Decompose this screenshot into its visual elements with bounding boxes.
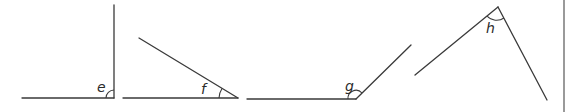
angles-diagram: e f g h — [0, 0, 566, 112]
angle-f: f — [123, 38, 238, 98]
angle-h-left-arm — [415, 7, 498, 75]
angle-g-slant-arm — [356, 45, 411, 99]
angle-f-label: f — [201, 81, 208, 97]
angle-f-arc — [219, 89, 222, 99]
angle-g-label: g — [345, 78, 354, 94]
angle-h-label: h — [486, 20, 495, 36]
angle-f-slant-arm — [139, 38, 238, 98]
angle-g: g — [247, 45, 411, 99]
angle-h: h — [415, 7, 547, 100]
angle-e-arc — [106, 90, 114, 98]
angle-e-label: e — [97, 79, 106, 95]
angle-e: e — [22, 5, 114, 98]
angle-h-right-arm — [498, 7, 547, 100]
